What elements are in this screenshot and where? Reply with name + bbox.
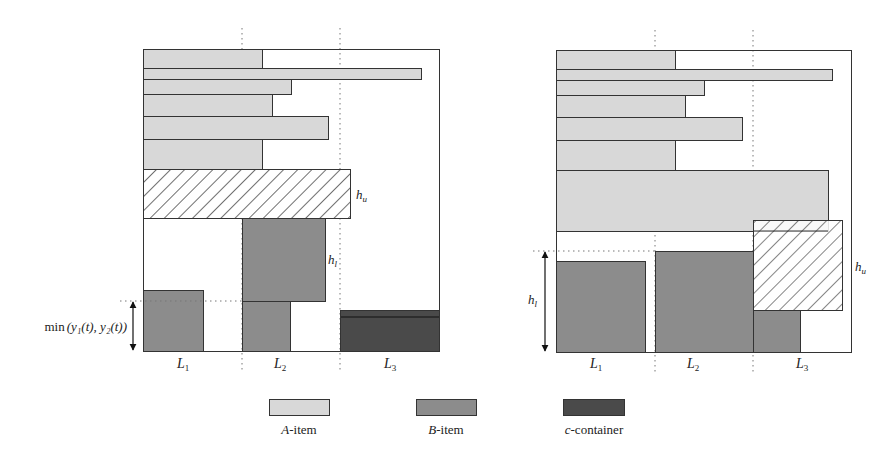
- a-item: [144, 117, 329, 140]
- a-item: [144, 95, 273, 117]
- lane-label-l3: L3: [795, 356, 809, 373]
- b-item: [243, 302, 291, 352]
- a-item: [144, 140, 263, 170]
- left-panel: min(y₁(t), y₂(t)) hu hl L1 L2 L3: [44, 28, 439, 373]
- legend-swatch-c-container: [564, 400, 625, 416]
- lane-label-l1: L1: [176, 356, 189, 373]
- legend-swatch-b-item: [417, 400, 477, 416]
- a-item: [144, 80, 292, 95]
- b-item: [144, 291, 204, 352]
- lane-label-l2: L2: [686, 356, 699, 373]
- a-item: [557, 96, 686, 118]
- packing-diagram: min(y₁(t), y₂(t)) hu hl L1 L2 L3 hl hu: [0, 0, 894, 459]
- a-item: [557, 51, 676, 70]
- lane-label-l2: L2: [273, 356, 286, 373]
- b-item: [656, 252, 754, 353]
- legend-label-a-item: A-item: [280, 422, 316, 437]
- lane-label-l1: L1: [589, 356, 602, 373]
- min-label: min(y₁(t), y₂(t)): [44, 319, 127, 334]
- b-item: [557, 262, 646, 353]
- legend: A-item B-item c-container: [270, 400, 625, 438]
- hu-label: hu: [855, 259, 867, 276]
- hatched-item: [754, 221, 843, 311]
- b-item: [754, 311, 801, 353]
- a-item: [144, 50, 263, 69]
- hl-label: hl: [328, 252, 338, 269]
- lane-label-l3: L3: [383, 356, 397, 373]
- a-item: [557, 118, 743, 141]
- a-item: [557, 70, 833, 81]
- a-item: [557, 141, 676, 171]
- right-panel: hl hu L1 L2 L3: [528, 30, 867, 373]
- legend-label-b-item: B-item: [428, 422, 463, 437]
- legend-swatch-a-item: [270, 400, 330, 416]
- hatched-item: [144, 170, 351, 219]
- a-item: [144, 69, 422, 80]
- a-item: [557, 81, 705, 96]
- hl-label: hl: [528, 292, 538, 309]
- legend-label-c-container: c-container: [565, 422, 624, 437]
- hu-label: hu: [356, 187, 368, 204]
- b-item: [243, 217, 326, 302]
